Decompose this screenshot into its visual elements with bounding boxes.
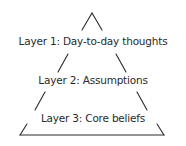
base-left-edge (20, 124, 27, 135)
apex-right-edge (92, 13, 102, 30)
layer-3-label: Layer 3: Core beliefs (0, 112, 186, 124)
base-right-edge (157, 124, 164, 135)
layer-2-label: Layer 2: Assumptions (0, 74, 186, 86)
lower-left-edge (35, 92, 45, 110)
apex-left-edge (82, 13, 92, 30)
mid-right-edge (116, 54, 126, 72)
lower-right-edge (137, 92, 147, 110)
layer-1-label: Layer 1: Day-to-day thoughts (0, 35, 186, 47)
pyramid-outline (0, 0, 186, 146)
pyramid-diagram: Layer 1: Day-to-day thoughts Layer 2: As… (0, 0, 186, 146)
mid-left-edge (58, 54, 68, 72)
